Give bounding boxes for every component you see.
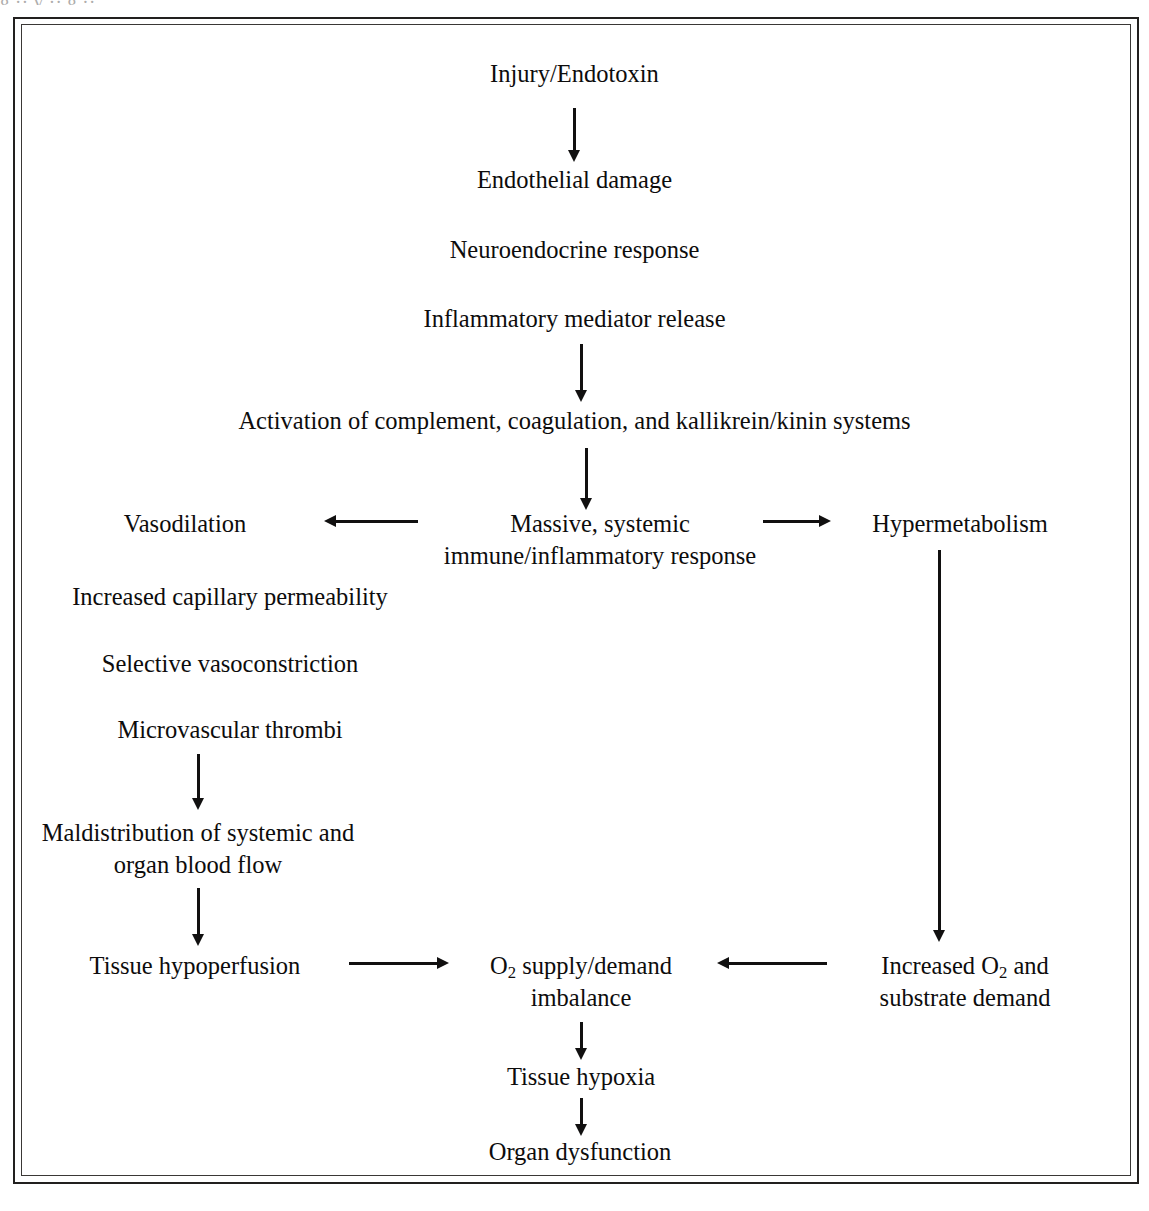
node-maldistribution-line2: organ blood flow <box>8 849 388 881</box>
node-endothelial-damage: Endothelial damage <box>0 164 1149 196</box>
node-increased-o2-prefix: Increased O <box>881 952 999 979</box>
node-vasodilation: Vasodilation <box>60 508 310 540</box>
node-activation-systems: Activation of complement, coagulation, a… <box>0 405 1149 437</box>
node-o2-subscript: 2 <box>508 963 516 982</box>
node-increased-o2-suffix: and <box>1007 952 1049 979</box>
node-hypermetabolism: Hypermetabolism <box>840 508 1080 540</box>
arrow-hypermetabolism-to-increased-o2-demand <box>931 550 947 942</box>
node-microvascular-thrombi: Microvascular thrombi <box>20 714 440 746</box>
node-increased-o2-subscript: 2 <box>999 963 1007 982</box>
node-increased-o2-line2: substrate demand <box>840 982 1090 1014</box>
flowchart-page: g ·· y ·· g ·· Injury/Endotoxin Endothel… <box>0 0 1149 1211</box>
arrow-mediator-to-activation <box>573 344 589 402</box>
node-o2-supply-demand-imbalance: O2 supply/demand imbalance <box>452 950 710 1014</box>
arrow-hypoxia-to-organ-dysfunction <box>573 1098 589 1136</box>
arrow-massive-to-vasodilation <box>324 508 418 534</box>
node-increased-capillary-permeability: Increased capillary permeability <box>20 581 440 613</box>
arrow-massive-to-hypermetabolism <box>763 508 831 534</box>
clipped-caption-fragment: g ·· y ·· g ·· <box>0 0 700 5</box>
node-massive-systemic-response: Massive, systemic immune/inflammatory re… <box>430 508 770 572</box>
arrow-thrombi-to-maldistribution <box>190 754 206 810</box>
node-tissue-hypoxia: Tissue hypoxia <box>452 1061 710 1093</box>
node-o2-label-prefix: O <box>490 952 508 979</box>
arrow-activation-to-massive-response <box>578 448 594 510</box>
node-massive-line1: Massive, systemic <box>510 510 690 537</box>
node-massive-line2: immune/inflammatory response <box>430 540 770 572</box>
node-o2-label-suffix: supply/demand <box>516 952 672 979</box>
arrow-o2-imbalance-to-hypoxia <box>573 1022 589 1060</box>
node-o2-line2: imbalance <box>452 982 710 1014</box>
node-injury-endotoxin: Injury/Endotoxin <box>0 58 1149 90</box>
arrow-maldistribution-to-hypoperfusion <box>190 888 206 946</box>
node-tissue-hypoperfusion: Tissue hypoperfusion <box>20 950 370 982</box>
arrow-increased-o2-demand-to-imbalance <box>717 950 827 976</box>
node-inflammatory-mediator-release: Inflammatory mediator release <box>0 303 1149 335</box>
arrow-injury-to-endothelial <box>566 108 582 162</box>
node-organ-dysfunction: Organ dysfunction <box>440 1136 720 1168</box>
node-maldistribution-blood-flow: Maldistribution of systemic and organ bl… <box>8 817 388 881</box>
node-maldistribution-line1: Maldistribution of systemic and <box>42 819 354 846</box>
node-increased-o2-substrate-demand: Increased O2 and substrate demand <box>840 950 1090 1014</box>
node-neuroendocrine-response: Neuroendocrine response <box>0 234 1149 266</box>
node-selective-vasoconstriction: Selective vasoconstriction <box>20 648 440 680</box>
arrow-hypoperfusion-to-o2-imbalance <box>349 950 449 976</box>
